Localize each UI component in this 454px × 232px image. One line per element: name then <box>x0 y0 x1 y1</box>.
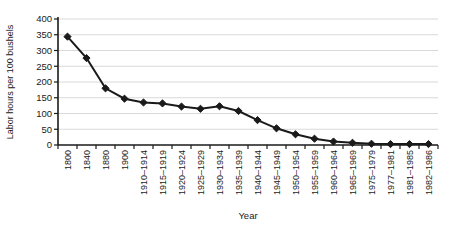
x-tick-label: 1910–1914 <box>139 150 149 195</box>
series-line <box>68 37 429 144</box>
x-tick-label: 1930–1934 <box>215 150 225 195</box>
x-tick-label: 1955–1959 <box>310 150 320 195</box>
y-tick-label: 0 <box>47 139 52 150</box>
x-axis-title: Year <box>238 210 257 221</box>
data-point-marker <box>159 100 166 107</box>
data-point-marker <box>368 140 375 147</box>
y-gridlines <box>58 19 438 129</box>
data-point-marker <box>425 140 432 147</box>
x-tick-label: 1940–1944 <box>253 150 263 195</box>
x-tick-label: 1925–1929 <box>196 150 206 195</box>
tick-labels: 0501001502002503003504001800184018801900… <box>36 13 434 195</box>
x-tick-label: 1960–1964 <box>329 150 339 195</box>
data-point-marker <box>216 103 223 110</box>
x-tick-label: 1920–1924 <box>177 150 187 195</box>
data-point-marker <box>197 105 204 112</box>
x-tick-label: 1915–1919 <box>158 150 168 195</box>
x-tick-label: 1900 <box>120 150 130 170</box>
y-tick-label: 250 <box>36 61 52 72</box>
y-axis-title: Labor hours per 100 bushels <box>5 24 15 139</box>
x-tick-label: 1950–1954 <box>291 150 301 195</box>
x-tick-label: 1981–1985 <box>405 150 415 195</box>
data-point-marker <box>121 95 128 102</box>
data-point-marker <box>140 99 147 106</box>
x-tick-label: 1965–1969 <box>348 150 358 195</box>
x-tick-label: 1935–1939 <box>234 150 244 195</box>
data-point-marker <box>311 135 318 142</box>
x-tick-label: 1880 <box>101 150 111 170</box>
y-tick-label: 350 <box>36 29 52 40</box>
x-tick-label: 1975–1979 <box>367 150 377 195</box>
data-point-marker <box>178 103 185 110</box>
x-tick-label: 1800 <box>63 150 73 170</box>
data-point-marker <box>292 131 299 138</box>
labor-hours-line-chart: 0501001502002503003504001800184018801900… <box>0 0 454 232</box>
y-tick-label: 150 <box>36 92 52 103</box>
x-tick-label: 1945–1949 <box>272 150 282 195</box>
data-point-marker <box>254 117 261 124</box>
x-tick-label: 1982–1986 <box>424 150 434 195</box>
chart-canvas: 0501001502002503003504001800184018801900… <box>0 0 454 232</box>
data-point-marker <box>387 140 394 147</box>
y-tick-label: 200 <box>36 76 52 87</box>
y-tick-label: 300 <box>36 45 52 56</box>
data-point-marker <box>406 140 413 147</box>
y-tick-label: 400 <box>36 13 52 24</box>
x-tick-label: 1977–1981 <box>386 150 396 195</box>
data-point-marker <box>330 138 337 145</box>
y-tick-label: 50 <box>41 124 52 135</box>
y-tick-label: 100 <box>36 108 52 119</box>
x-tick-label: 1840 <box>82 150 92 170</box>
data-point-marker <box>273 125 280 132</box>
